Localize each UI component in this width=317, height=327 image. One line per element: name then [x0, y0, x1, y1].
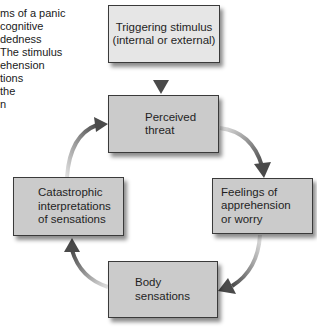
- arrow-feelings-to-body: [218, 235, 260, 294]
- node-body-sensations: Body sensations: [108, 261, 218, 318]
- arrow-body-to-catastrophic: [64, 238, 108, 287]
- node-label: Triggering stimulus (internal or externa…: [113, 21, 216, 48]
- arrow-threat-to-feelings: [220, 128, 271, 178]
- node-label: Catastrophic interpretations of sensatio…: [38, 186, 111, 227]
- node-catastrophic-interpretations: Catastrophic interpretations of sensatio…: [13, 177, 124, 236]
- arrow-catastrophic-to-threat: [67, 117, 108, 177]
- node-label: Perceived threat: [145, 111, 196, 138]
- node-label: Body sensations: [135, 276, 190, 303]
- node-label: Feelings of apprehension or worry: [221, 186, 291, 227]
- node-triggering-stimulus: Triggering stimulus (internal or externa…: [108, 5, 220, 63]
- node-perceived-threat: Perceived threat: [108, 95, 219, 153]
- arrow-trigger-to-threat: [153, 63, 169, 94]
- node-feelings-of-apprehension: Feelings of apprehension or worry: [212, 178, 313, 234]
